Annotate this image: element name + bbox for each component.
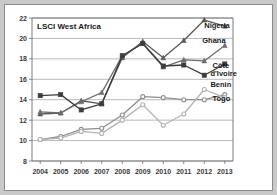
- data-point-marker[interactable]: [120, 118, 124, 122]
- chart-background: [5, 5, 272, 190]
- y-tick-label: 20: [19, 35, 27, 42]
- y-tick-label: 22: [19, 15, 27, 22]
- x-tick-label: 2012: [196, 168, 212, 175]
- data-point-marker[interactable]: [182, 112, 186, 116]
- x-tick-label: 2009: [135, 168, 151, 175]
- chart-panel: 810121416182022 200420052006200720082009…: [4, 4, 273, 191]
- y-tick-label: 16: [19, 76, 27, 83]
- series-label: Ghana: [202, 36, 226, 45]
- data-point-marker[interactable]: [202, 98, 206, 102]
- data-point-marker[interactable]: [202, 73, 206, 77]
- data-point-marker[interactable]: [202, 88, 206, 92]
- data-point-marker[interactable]: [38, 94, 42, 98]
- x-tick-label: 2013: [217, 168, 233, 175]
- series-label: Benin: [210, 80, 231, 89]
- chart-title: LSCI West Africa: [37, 22, 102, 31]
- data-point-marker[interactable]: [120, 54, 124, 58]
- data-point-marker[interactable]: [79, 129, 83, 133]
- data-point-marker[interactable]: [38, 138, 42, 142]
- data-point-marker[interactable]: [141, 103, 145, 107]
- data-point-marker[interactable]: [100, 126, 104, 130]
- data-point-marker[interactable]: [59, 93, 63, 97]
- x-tick-label: 2006: [73, 168, 89, 175]
- x-tick-label: 2004: [32, 168, 48, 175]
- y-tick-label: 8: [23, 158, 27, 165]
- series-label: Nigeria: [204, 21, 230, 30]
- data-point-marker[interactable]: [120, 113, 124, 117]
- data-point-marker[interactable]: [161, 96, 165, 100]
- data-point-marker[interactable]: [182, 98, 186, 102]
- x-tick-label: 2008: [114, 168, 130, 175]
- data-point-marker[interactable]: [161, 123, 165, 127]
- data-point-marker[interactable]: [141, 95, 145, 99]
- y-tick-label: 14: [19, 96, 27, 103]
- series-label: d'Ivoire: [210, 69, 236, 78]
- line-chart[interactable]: 810121416182022 200420052006200720082009…: [5, 5, 272, 190]
- y-tick-label: 10: [19, 137, 27, 144]
- x-tick-label: 2007: [94, 168, 110, 175]
- data-point-marker[interactable]: [59, 136, 63, 140]
- x-tick-label: 2011: [176, 168, 191, 175]
- figure-canvas: 810121416182022 200420052006200720082009…: [0, 0, 277, 195]
- data-point-marker[interactable]: [182, 63, 186, 67]
- y-tick-label: 18: [19, 55, 27, 62]
- data-point-marker[interactable]: [141, 41, 145, 45]
- x-tick-label: 2005: [53, 168, 69, 175]
- data-point-marker[interactable]: [79, 108, 83, 112]
- x-tick-label: 2010: [155, 168, 171, 175]
- data-point-marker[interactable]: [100, 102, 104, 106]
- data-point-marker[interactable]: [100, 131, 104, 135]
- y-tick-label: 12: [19, 117, 27, 124]
- data-point-marker[interactable]: [161, 64, 165, 68]
- series-label: Togo: [212, 94, 230, 103]
